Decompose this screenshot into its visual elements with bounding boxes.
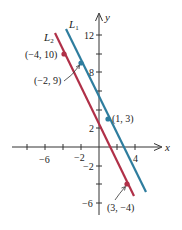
x-tick-label-neg6: −6 (39, 154, 50, 165)
label-1-3: (1, 3) (112, 113, 134, 125)
label-neg2-9: (−2, 9) (34, 75, 61, 87)
x-axis-label: x (164, 141, 170, 153)
label-neg4-10: (−4, 10) (25, 49, 57, 61)
y-tick-label-2: 2 (89, 123, 94, 134)
arrow-3-neg4-icon (115, 187, 125, 200)
parallel-lines-diagram: x y −6 −2 4 12 8 2 −2 −6 L1 L2 (−4, 10) … (0, 0, 182, 230)
y-axis-label: y (104, 11, 110, 23)
line-l2-label: L2 (43, 31, 54, 45)
y-axis (96, 13, 103, 215)
y-tick-label-12: 12 (84, 30, 94, 41)
line-l1 (66, 29, 146, 192)
x-tick-label-4: 4 (133, 153, 138, 164)
x-axis (12, 144, 162, 151)
point-3-neg4 (124, 181, 129, 186)
point-1-3 (105, 116, 110, 121)
line-l1-label: L1 (68, 18, 79, 32)
point-neg4-10 (61, 51, 66, 56)
label-3-neg4: (3, −4) (107, 202, 134, 214)
y-tick-label-neg2: −2 (83, 161, 94, 172)
y-tick-label-neg6: −6 (82, 198, 93, 209)
